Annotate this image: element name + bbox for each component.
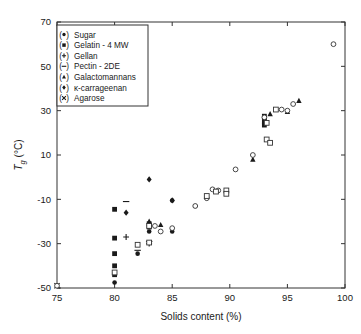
data-point [123, 234, 129, 240]
legend-item-6[interactable]: ()Agarose [59, 94, 105, 103]
legend-paren-close: ) [66, 41, 69, 50]
y-tick-label: -10 [37, 194, 51, 205]
data-point [112, 263, 117, 268]
series-5 [124, 115, 267, 215]
y-axis-title: Tg (°C) [13, 140, 27, 171]
legend-paren-close: ) [66, 62, 69, 71]
legend-paren-close: ) [66, 84, 69, 93]
legend-paren-close: ) [66, 52, 69, 61]
filled-square-glyph [112, 236, 117, 241]
data-point [204, 194, 209, 199]
data-point [112, 280, 117, 285]
data-point [250, 153, 255, 158]
data-point [146, 219, 151, 224]
chart-figure: 7580859095100 -50-30-1010305070 Solids c… [0, 0, 361, 334]
open-square-glyph [273, 107, 278, 112]
x-tick-label: 100 [337, 292, 353, 303]
y-axis-tick-labels: -50-30-1010305070 [37, 16, 51, 293]
y-tick-label: 50 [40, 61, 51, 72]
filled-diamond-glyph [170, 197, 175, 203]
series-4 [146, 98, 301, 227]
x-axis-tick-labels: 7580859095100 [52, 292, 353, 303]
legend-label: Gelatin - 4 MW [74, 41, 129, 50]
legend-paren-close: ) [66, 94, 69, 103]
data-point [214, 189, 219, 194]
data-point [268, 140, 273, 145]
open-square-glyph [112, 270, 117, 275]
open-circle-glyph [153, 224, 158, 229]
open-square-glyph [268, 140, 273, 145]
y-tick-label: -50 [37, 282, 51, 293]
data-point [124, 210, 129, 216]
series-1 [112, 114, 267, 277]
data-point [112, 251, 117, 256]
filled-triangle-glyph [146, 219, 151, 224]
filled-circle-glyph [112, 280, 117, 285]
data-point [331, 42, 336, 47]
data-point [158, 222, 163, 227]
legend-label: Agarose [74, 94, 105, 103]
y-tick-label: 70 [40, 16, 51, 27]
svg-text:Tg (°C): Tg (°C) [13, 140, 27, 171]
data-point [112, 270, 117, 275]
data-point [264, 120, 269, 125]
data-point [158, 229, 163, 234]
data-point [147, 224, 152, 229]
filled-diamond-glyph [147, 176, 152, 182]
x-tick-label: 95 [282, 292, 293, 303]
legend-paren-close: ) [66, 73, 69, 82]
data-point [285, 108, 290, 113]
scatter-plot: 7580859095100 -50-30-1010305070 Solids c… [0, 0, 361, 334]
data-point [224, 191, 229, 196]
open-circle-glyph [193, 204, 198, 209]
data-point [291, 102, 296, 107]
open-circle-glyph [250, 153, 255, 158]
y-axis-title-unit: (°C) [13, 140, 24, 161]
legend-label: Gellan [74, 52, 98, 61]
legend-paren-open: ( [59, 52, 62, 61]
open-circle-glyph [158, 229, 163, 234]
x-tick-label: 90 [225, 292, 236, 303]
data-point [273, 107, 278, 112]
open-square-glyph [214, 189, 219, 194]
data-point [153, 224, 158, 229]
open-square-glyph [147, 224, 152, 229]
data-point [233, 167, 238, 172]
legend-paren-open: ( [59, 84, 62, 93]
legend-paren-open: ( [59, 62, 62, 71]
legend-paren-open: ( [59, 94, 62, 103]
legend-item-3[interactable]: ()Pectin - 2DE [59, 62, 120, 71]
open-circle-glyph [291, 102, 296, 107]
data-point [170, 226, 175, 231]
filled-square-glyph [112, 251, 117, 256]
open-square-glyph [204, 194, 209, 199]
data-point [296, 98, 301, 103]
x-tick-label: 80 [109, 292, 120, 303]
open-circle-glyph [233, 167, 238, 172]
open-square-glyph [224, 191, 229, 196]
open-square-glyph [147, 240, 152, 245]
data-point [147, 240, 152, 245]
data-point [135, 251, 140, 256]
open-circle-glyph [279, 107, 284, 112]
y-tick-label: -30 [37, 238, 51, 249]
filled-square-glyph [112, 263, 117, 268]
x-tick-label: 85 [167, 292, 178, 303]
x-axis-title: Solids content (%) [160, 311, 241, 322]
open-circle-glyph [262, 115, 267, 120]
series-0 [112, 115, 266, 285]
filled-triangle-glyph [267, 111, 272, 116]
data-point [147, 229, 152, 234]
legend-paren-open: ( [59, 31, 62, 40]
open-square-glyph [264, 120, 269, 125]
data-point [170, 197, 175, 203]
data-point [279, 107, 284, 112]
open-circle-glyph [55, 283, 60, 288]
legend-label: Pectin - 2DE [74, 62, 120, 71]
legend-label: Galactomannans [74, 73, 136, 82]
filled-triangle-glyph [296, 98, 301, 103]
legend-label: Sugar [74, 31, 96, 40]
plus-glyph [123, 234, 129, 240]
filled-circle-glyph [135, 251, 140, 256]
legend-paren-open: ( [59, 73, 62, 82]
